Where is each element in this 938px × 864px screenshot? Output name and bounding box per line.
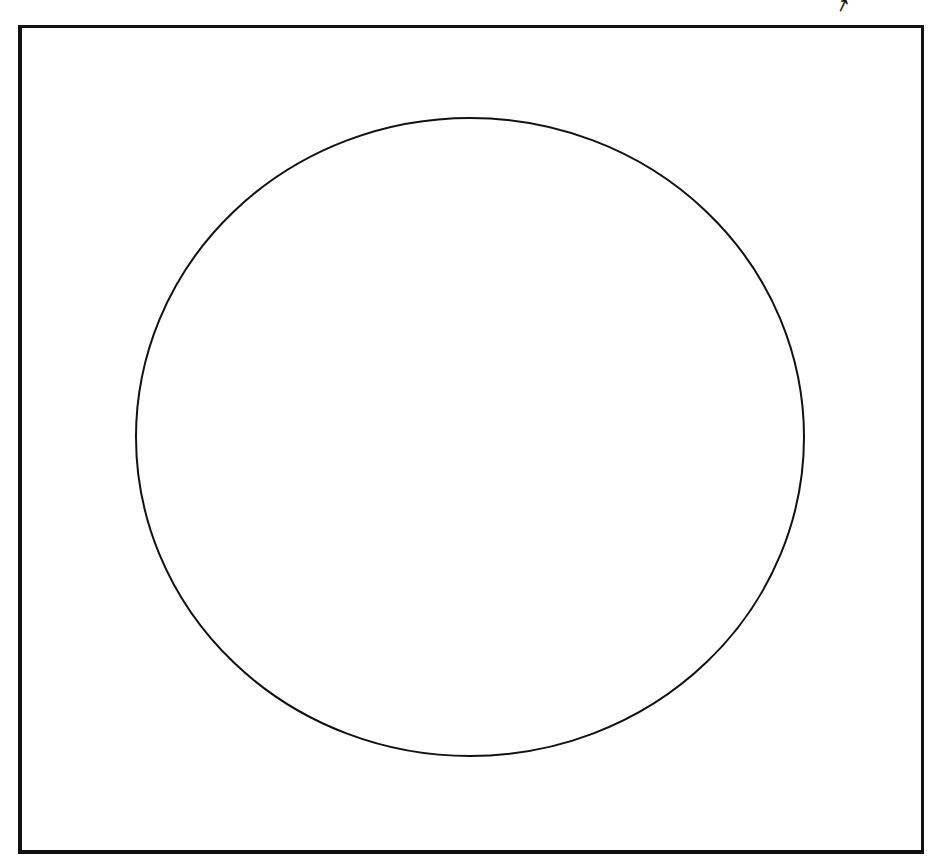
- diagram-canvas: [0, 0, 938, 864]
- circle-shape: [136, 118, 804, 756]
